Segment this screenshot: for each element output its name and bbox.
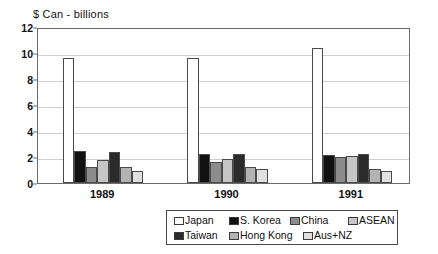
legend-item[interactable]: Taiwan: [174, 228, 218, 243]
bar: [245, 167, 257, 183]
legend-label: Hong Kong: [240, 229, 293, 241]
bar: [233, 154, 245, 183]
y-axis-tick-label: 8: [0, 74, 33, 86]
y-axis-tick-label: 10: [0, 48, 33, 60]
gridline: [38, 107, 409, 108]
legend-row: JapanS. KoreaChinaASEAN: [172, 213, 397, 228]
legend-swatch-icon: [290, 217, 300, 225]
bar: [187, 58, 199, 183]
legend-item[interactable]: ASEAN: [348, 213, 395, 228]
gridline: [38, 81, 409, 82]
bar: [323, 155, 335, 183]
legend-label: S. Korea: [240, 214, 281, 226]
legend-label: ASEAN: [359, 214, 395, 226]
legend: JapanS. KoreaChinaASEANTaiwanHong KongAu…: [166, 210, 398, 245]
legend-swatch-icon: [174, 217, 184, 225]
legend-item[interactable]: Hong Kong: [229, 228, 293, 243]
bar: [109, 152, 121, 183]
legend-swatch-icon: [229, 232, 239, 240]
bar: [358, 154, 370, 183]
gridline: [38, 55, 409, 56]
bar-chart: $ Can - billions 024681012 198919901991 …: [0, 0, 438, 254]
bar: [222, 159, 234, 183]
legend-swatch-icon: [174, 232, 184, 240]
legend-label: China: [301, 214, 328, 226]
y-axis-tick-label: 0: [0, 178, 33, 190]
legend-row: TaiwanHong KongAus+NZ: [172, 228, 397, 243]
y-axis-tick-label: 4: [0, 126, 33, 138]
bar: [97, 160, 109, 183]
bar: [369, 169, 381, 183]
legend-swatch-icon: [229, 217, 239, 225]
bar: [132, 171, 144, 183]
chart-title: $ Can - billions: [33, 8, 109, 20]
gridline: [38, 133, 409, 134]
y-axis-tick-label: 6: [0, 100, 33, 112]
bar: [335, 157, 347, 183]
y-axis-tick-label: 12: [0, 22, 33, 34]
bar: [210, 162, 222, 183]
bar: [74, 151, 86, 183]
legend-label: Taiwan: [185, 229, 218, 241]
legend-label: Aus+NZ: [314, 229, 352, 241]
x-axis-tick-label: 1989: [90, 188, 114, 200]
bar: [346, 156, 358, 183]
x-axis-tick-label: 1991: [339, 188, 363, 200]
bar: [381, 171, 393, 183]
legend-swatch-icon: [303, 232, 313, 240]
legend-item[interactable]: S. Korea: [229, 213, 281, 228]
legend-item[interactable]: Aus+NZ: [303, 228, 352, 243]
plot-area: [37, 28, 410, 184]
legend-item[interactable]: Japan: [174, 213, 214, 228]
legend-item[interactable]: China: [290, 213, 328, 228]
bar: [199, 154, 211, 183]
bar: [86, 167, 98, 183]
x-axis: 198919901991: [37, 188, 410, 206]
bar: [63, 58, 75, 183]
bar: [256, 169, 268, 183]
bar: [120, 167, 132, 183]
legend-label: Japan: [185, 214, 214, 226]
bar: [312, 48, 324, 183]
y-axis-tick-label: 2: [0, 152, 33, 164]
legend-swatch-icon: [348, 217, 358, 225]
x-axis-tick-label: 1990: [214, 188, 238, 200]
y-axis: 024681012: [0, 28, 33, 184]
